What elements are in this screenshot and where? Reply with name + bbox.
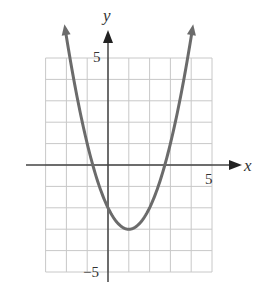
axes: [26, 30, 242, 282]
x-axis-arrow-icon: [229, 160, 242, 170]
x-axis-label: x: [244, 157, 252, 174]
y-axis-label: y: [103, 7, 111, 24]
curve-arrow-icon: [62, 24, 71, 36]
x-tick-label-5: 5: [205, 172, 213, 187]
curve-arrowheads: [62, 24, 196, 36]
curve-arrow-icon: [187, 24, 196, 36]
y-tick-label-neg5: −5: [83, 265, 99, 280]
y-tick-label-5: 5: [93, 50, 101, 65]
y-axis-arrow-icon: [103, 30, 113, 43]
parabola-graph: [0, 0, 269, 284]
